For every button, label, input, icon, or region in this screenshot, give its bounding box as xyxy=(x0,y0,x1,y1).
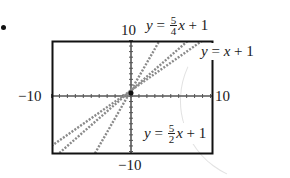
eq-equals: = xyxy=(208,43,224,60)
equation-label-5-2: y = 5 2 x + 1 xyxy=(144,123,206,144)
y-min-label: −10 xyxy=(118,158,141,173)
eq-rest: + 1 xyxy=(230,43,253,60)
eq-equals: = xyxy=(153,17,169,34)
calculator-graph xyxy=(0,0,290,178)
denominator: 4 xyxy=(171,26,177,36)
eq-rest: + 1 xyxy=(185,17,208,34)
intersection-point xyxy=(129,91,134,96)
y-max-label: 10 xyxy=(121,23,136,38)
eq-y: y xyxy=(146,17,153,34)
fraction: 5 2 xyxy=(168,123,176,144)
eq-rest: + 1 xyxy=(183,125,206,142)
eq-y: y xyxy=(144,125,151,142)
eq-equals: = xyxy=(151,125,167,142)
denominator: 2 xyxy=(169,134,175,144)
equation-label-x-plus-1: y = x + 1 xyxy=(201,43,254,60)
equation-label-5-4: y = 5 4 x + 1 xyxy=(146,15,208,36)
x-min-label: −10 xyxy=(18,89,41,104)
eq-x: x xyxy=(224,43,231,60)
x-max-label: 10 xyxy=(215,89,230,104)
fraction: 5 4 xyxy=(170,15,178,36)
eq-x: x xyxy=(178,17,185,34)
eq-x: x xyxy=(176,125,183,142)
eq-y: y xyxy=(201,43,208,60)
